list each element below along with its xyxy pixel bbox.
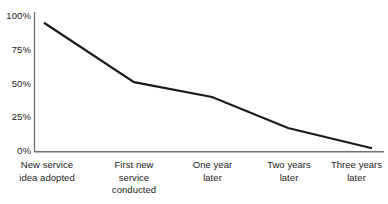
x-tick-label-4: Two years later (250, 159, 328, 184)
x-tick-label-5: Three years later (325, 159, 388, 184)
x-tick-label-2: First new service conducted (93, 159, 175, 197)
x-tick-label-1: New service idea adopted (0, 159, 94, 184)
line-chart: 100% 75% 50% 25% 0% New service idea ado… (0, 0, 388, 204)
x-tick-label-3: One year later (173, 159, 252, 184)
data-series-line (44, 23, 372, 149)
